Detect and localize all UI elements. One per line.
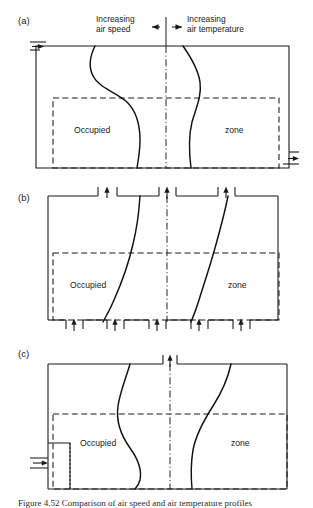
panel-c-occupied-zone-box bbox=[53, 414, 287, 489]
panel-b: (b) bbox=[18, 187, 279, 332]
panel-a-air-speed-profile bbox=[90, 46, 140, 168]
panel-a-extract-opening bbox=[283, 152, 299, 164]
panel-c-label: (c) bbox=[18, 348, 29, 359]
panel-c-side-supply bbox=[30, 443, 70, 489]
panel-b-air-temperature-profile bbox=[191, 196, 228, 322]
panel-c-occupied-label: Occupied bbox=[80, 438, 117, 448]
panel-b-zone-label: zone bbox=[228, 280, 247, 290]
figure-caption: Figure 4.52 Comparison of air speed and … bbox=[18, 498, 252, 508]
axis-annotation-group: Increasing air speed Increasing air temp… bbox=[96, 14, 244, 46]
panel-b-ceiling-opening-1 bbox=[98, 187, 117, 199]
figure-container: Increasing air speed Increasing air temp… bbox=[0, 0, 313, 508]
panel-c: (c) Occupied bbox=[18, 348, 287, 489]
panel-b-occupied-label: Occupied bbox=[70, 280, 107, 290]
panel-a-label: (a) bbox=[18, 15, 30, 26]
panel-c-air-speed-profile bbox=[118, 364, 141, 489]
arrow-right-icon bbox=[172, 24, 182, 29]
panel-a-air-temperature-profile bbox=[183, 46, 200, 168]
panel-a-occupied-label: Occupied bbox=[74, 125, 111, 135]
increasing-air-temperature-label-line1: Increasing bbox=[187, 14, 226, 24]
increasing-air-temperature-label-line2: air temperature bbox=[187, 24, 244, 34]
panel-b-ceiling-opening-3 bbox=[218, 187, 235, 199]
panel-b-ceiling-opening-2 bbox=[159, 187, 176, 200]
increasing-air-speed-label-line2: air speed bbox=[96, 24, 131, 34]
panel-a-room-outline bbox=[36, 46, 289, 168]
panel-b-air-speed-profile bbox=[103, 196, 140, 322]
increasing-air-speed-label-line1: Increasing bbox=[96, 14, 135, 24]
panel-a: (a) Occupied zone bbox=[18, 15, 299, 168]
panel-b-label: (b) bbox=[18, 192, 30, 203]
panel-a-zone-label: zone bbox=[225, 125, 244, 135]
arrow-left-icon bbox=[152, 24, 160, 29]
panel-c-air-temperature-profile bbox=[191, 364, 231, 489]
ventilation-profiles-figure: Increasing air speed Increasing air temp… bbox=[0, 0, 313, 508]
panel-c-zone-label: zone bbox=[231, 438, 250, 448]
